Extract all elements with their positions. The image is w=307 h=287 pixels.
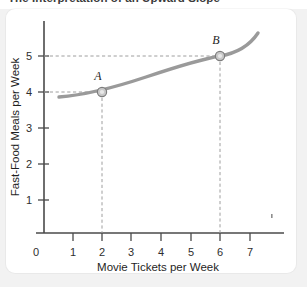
x-tick-label-1: 1 [70, 246, 76, 258]
y-tick-label-3: 3 [26, 122, 32, 134]
y-tick-label-5: 5 [26, 50, 32, 62]
x-tick-label-3: 3 [128, 246, 134, 258]
figure-title: The Interpretation of an Upward Slope [8, 0, 220, 4]
upward-slope-curve [59, 33, 258, 97]
y-axis-title: Fast-Food Meals per Week [9, 58, 21, 197]
figure-card: 5 4 3 2 1 0 1 2 3 4 5 [6, 9, 296, 273]
data-point-b[interactable] [215, 51, 224, 60]
x-tick-label-7: 7 [247, 246, 253, 258]
data-point-a[interactable] [97, 87, 106, 96]
y-tick-label-4: 4 [26, 86, 32, 98]
y-tick-label-1: 1 [26, 194, 32, 206]
x-tick-label-0: 0 [33, 246, 39, 258]
y-axis-tick-labels: 5 4 3 2 1 [26, 50, 32, 206]
data-point-a-label: A [93, 69, 102, 83]
x-tick-label-5: 5 [188, 246, 194, 258]
page-background: The Interpretation of an Upward Slope 5 … [0, 0, 307, 287]
x-axis-ticks [73, 233, 250, 241]
chart-plot-area: 5 4 3 2 1 0 1 2 3 4 5 [6, 9, 296, 273]
data-point-b-label: B [212, 33, 220, 47]
x-tick-label-4: 4 [158, 246, 164, 258]
x-axis-tick-labels: 0 1 2 3 4 5 6 7 [33, 246, 253, 258]
x-axis-title: Movie Tickets per Week [97, 261, 219, 273]
x-tick-label-6: 6 [217, 246, 223, 258]
figure-title-strip: The Interpretation of an Upward Slope [0, 0, 307, 9]
y-tick-label-2: 2 [26, 158, 32, 170]
stray-speck-mark [271, 214, 273, 218]
x-tick-label-2: 2 [99, 246, 105, 258]
